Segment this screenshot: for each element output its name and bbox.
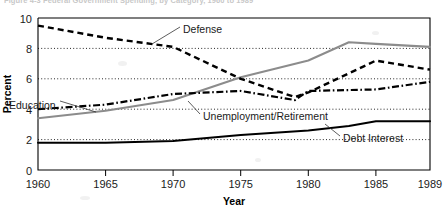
series-line-education <box>38 82 430 109</box>
x-tick-label-1989: 1989 <box>418 178 442 190</box>
defense-leader-line <box>152 27 180 44</box>
y-tick-label-0: 0 <box>26 165 32 177</box>
unemployment-retirement-leader-line <box>188 101 200 114</box>
y-tick-label-2: 2 <box>26 134 32 146</box>
x-tick-label-1980: 1980 <box>296 178 320 190</box>
x-tick-label-1970: 1970 <box>161 178 185 190</box>
series-group <box>38 26 430 143</box>
scan-artifact <box>255 158 261 162</box>
x-axis: 1960 1965 1970 1975 1980 1985 1989 Year <box>26 170 442 207</box>
annotation-unemployment-retirement: Unemployment/Retirement <box>203 110 328 122</box>
debt-interest-leader-line <box>325 124 340 136</box>
x-axis-title: Year <box>223 195 245 207</box>
y-tick-label-8: 8 <box>26 43 32 55</box>
y-tick-label-10: 10 <box>20 13 32 25</box>
x-tick-label-1975: 1975 <box>228 178 252 190</box>
scan-artifact <box>372 31 379 35</box>
scan-artifact <box>118 61 127 66</box>
annotation-debt-interest: Debt Interest <box>343 132 403 144</box>
annotation-defense: Defense <box>183 23 222 35</box>
x-tick-label-1985: 1985 <box>364 178 388 190</box>
y-axis: 10 8 6 4 2 0 Percent <box>1 13 32 177</box>
scan-artifact <box>80 196 90 200</box>
frame-outline <box>38 18 430 170</box>
figure-root: Figure 4-3 Federal Government Spending, … <box>0 0 445 217</box>
y-tick-label-6: 6 <box>26 73 32 85</box>
x-tick-label-1965: 1965 <box>93 178 117 190</box>
x-tick-label-1960: 1960 <box>26 178 50 190</box>
education-leader-line <box>60 101 96 112</box>
annotation-education: Education <box>9 99 56 111</box>
plot-frame <box>38 18 430 170</box>
series-line-defense <box>38 26 430 97</box>
series-line-unemployment-retirement <box>38 42 430 118</box>
